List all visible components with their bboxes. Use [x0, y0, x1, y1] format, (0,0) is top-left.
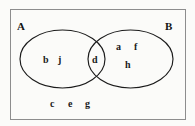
element-c: c: [50, 99, 54, 109]
element-b: b: [43, 55, 49, 65]
element-a: a: [116, 42, 121, 52]
element-h: h: [125, 60, 131, 70]
element-g: g: [85, 99, 90, 109]
set-b-label: B: [165, 21, 173, 32]
element-d: d: [92, 55, 98, 65]
venn-diagram: A B b j d a f h c e g: [0, 0, 195, 126]
element-j: j: [58, 55, 61, 65]
element-e: e: [68, 99, 72, 109]
set-a-label: A: [17, 21, 25, 32]
element-f: f: [134, 42, 137, 52]
